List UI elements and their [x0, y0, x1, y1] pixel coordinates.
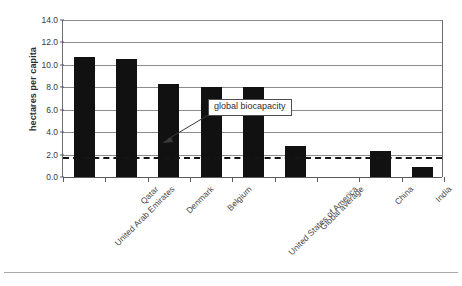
bar: [116, 59, 137, 177]
x-tick-mark: [317, 177, 318, 182]
x-tick-mark: [444, 177, 445, 182]
y-gridline: [63, 177, 442, 178]
chart-figure: hectares per capita 0.02.04.06.08.010.01…: [0, 0, 462, 286]
y-tick-label: 0.0: [46, 172, 58, 182]
y-tick-mark: [60, 109, 64, 110]
bar: [285, 146, 306, 177]
y-axis-title: hectares per capita: [28, 19, 38, 159]
bar: [158, 84, 179, 177]
x-axis-label: Belgium: [225, 184, 254, 213]
global-biocapacity-reference-line: [63, 157, 442, 159]
y-tick-label: 14.0: [41, 15, 58, 25]
y-tick-label: 8.0: [46, 82, 58, 92]
bar: [74, 57, 95, 177]
y-tick-mark: [60, 132, 64, 133]
x-tick-mark: [190, 177, 191, 182]
x-axis-label: Denmark: [184, 184, 215, 215]
y-gridline: [63, 42, 442, 43]
y-tick-mark: [60, 87, 64, 88]
figure-bottom-rule: [4, 272, 458, 273]
y-tick-mark: [60, 64, 64, 65]
bar: [370, 151, 391, 177]
global-biocapacity-annotation: global biocapacity: [208, 99, 292, 116]
y-gridline: [63, 20, 442, 21]
x-tick-mark: [148, 177, 149, 182]
y-tick-label: 6.0: [46, 105, 58, 115]
y-tick-mark: [60, 42, 64, 43]
x-tick-mark: [402, 177, 403, 182]
y-tick-label: 2.0: [46, 150, 58, 160]
x-axis-label: Global average: [318, 184, 366, 232]
y-tick-mark: [60, 154, 64, 155]
x-tick-mark: [63, 177, 64, 182]
y-tick-mark: [60, 20, 64, 21]
y-tick-label: 4.0: [46, 127, 58, 137]
x-tick-mark: [232, 177, 233, 182]
y-tick-label: 12.0: [41, 37, 58, 47]
x-tick-mark: [275, 177, 276, 182]
x-tick-mark: [359, 177, 360, 182]
y-tick-label: 10.0: [41, 60, 58, 70]
x-axis-label: China: [392, 184, 415, 207]
x-axis-label: India: [433, 184, 453, 204]
bar: [412, 167, 433, 177]
x-tick-mark: [105, 177, 106, 182]
